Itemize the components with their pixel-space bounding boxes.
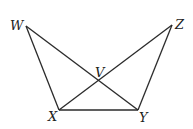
label-y: Y [139,110,149,125]
label-v: V [95,65,106,80]
geometry-diagram: W Z V X Y [0,0,193,129]
label-w: W [10,18,25,33]
label-x: X [47,109,58,124]
label-z: Z [174,17,185,32]
